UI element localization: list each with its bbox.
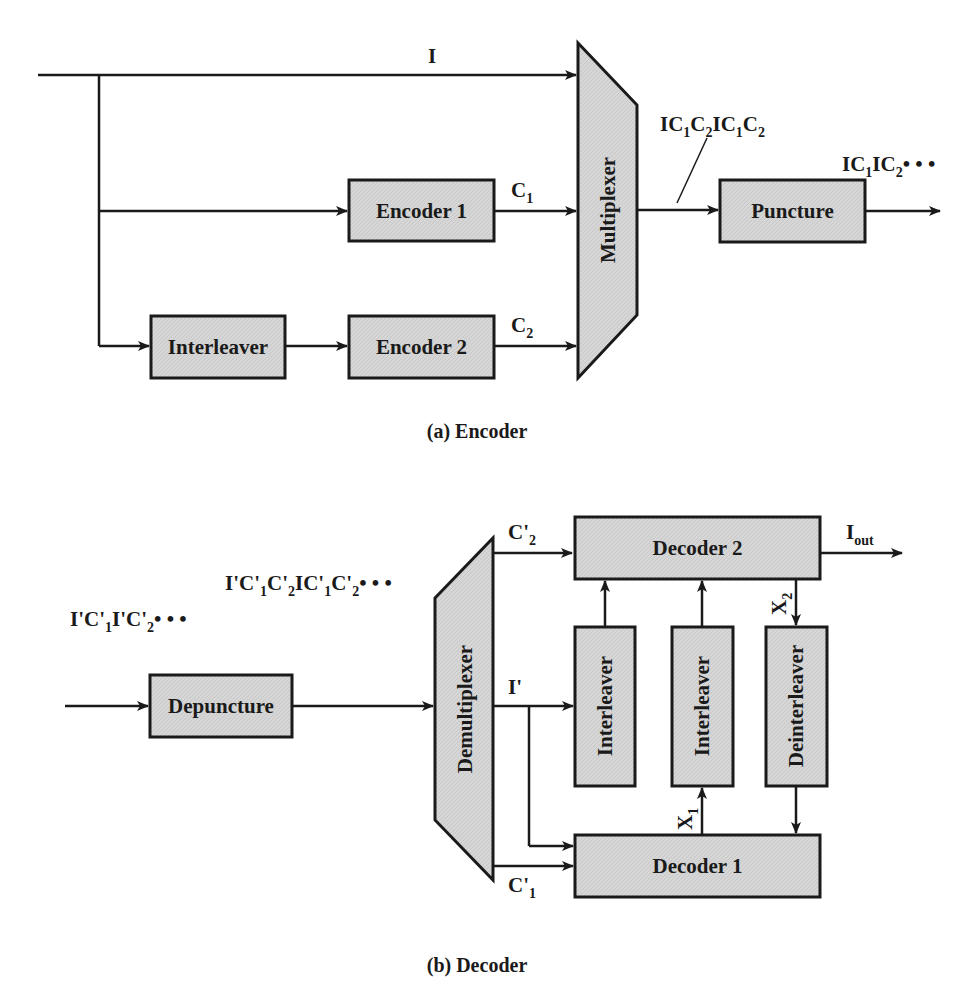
demultiplexer-block: Demultiplexer (435, 538, 493, 880)
signal-mux-output-sequence: IC1C2IC1C2 (660, 112, 765, 140)
depuncture-label: Depuncture (168, 694, 274, 718)
signal-X1: X1 (673, 808, 701, 830)
signal-Iout: Iout (846, 520, 874, 548)
deinterleaver-block: Deinterleaver (766, 627, 827, 786)
depuncture-block: Depuncture (150, 675, 292, 737)
encoder-caption: (a) Encoder (427, 420, 528, 443)
demultiplexer-label: Demultiplexer (453, 645, 477, 773)
encoder2-label: Encoder 2 (376, 335, 467, 359)
decoder-section: Depuncture Demultiplexer Decoder 2 Inter… (65, 517, 902, 977)
deinterleaver-label: Deinterleaver (784, 645, 808, 767)
encoder-section: Encoder 1 Interleaver Encoder 2 Multiple… (38, 43, 940, 443)
signal-I: I (428, 44, 436, 68)
interleaver-label: Interleaver (168, 335, 268, 359)
decoder2-block: Decoder 2 (575, 517, 820, 579)
encoder1-block: Encoder 1 (349, 180, 494, 241)
puncture-label: Puncture (751, 199, 833, 223)
interleaver-b-block: Interleaver (672, 627, 733, 786)
turbo-code-diagram: Encoder 1 Interleaver Encoder 2 Multiple… (0, 0, 954, 992)
interleaver-block: Interleaver (151, 316, 285, 378)
signal-puncture-output-sequence: IC1IC2• • • (842, 152, 935, 180)
signal-input-sequence: I'C'1I'C'2• • • (70, 607, 187, 635)
signal-C2: C2 (511, 313, 533, 341)
signal-I-prime: I' (508, 675, 522, 699)
multiplexer-block: Multiplexer (578, 43, 637, 378)
decoder-caption: (b) Decoder (427, 954, 528, 977)
interleaver-a-label: Interleaver (593, 656, 617, 756)
label-leader-line (677, 138, 707, 203)
signal-C2-prime: C'2 (508, 520, 536, 548)
interleaver-b-label: Interleaver (690, 656, 714, 756)
decoder1-label: Decoder 1 (653, 854, 743, 878)
encoder2-block: Encoder 2 (349, 316, 494, 378)
interleaver-a-block: Interleaver (575, 627, 635, 786)
signal-X2: X2 (767, 593, 795, 615)
signal-C1: C1 (511, 178, 533, 206)
signal-depuncture-output-sequence: I'C'1C'2IC'1C'2• • • (225, 571, 392, 599)
decoder2-label: Decoder 2 (653, 536, 743, 560)
signal-C1-prime: C'1 (508, 873, 536, 901)
decoder1-block: Decoder 1 (575, 835, 820, 897)
multiplexer-label: Multiplexer (596, 157, 620, 263)
encoder1-label: Encoder 1 (376, 199, 467, 223)
puncture-block: Puncture (720, 180, 865, 242)
